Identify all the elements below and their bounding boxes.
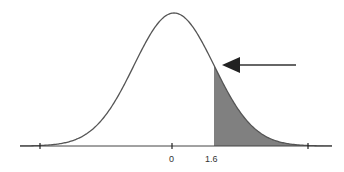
bell-curve — [20, 13, 332, 146]
tick-label-cutoff: 1.6 — [205, 154, 218, 164]
normal-distribution-chart — [0, 0, 344, 172]
shaded-tail-region — [214, 65, 332, 146]
tick-label-zero: 0 — [169, 154, 174, 164]
arrow-head-icon — [222, 57, 240, 73]
